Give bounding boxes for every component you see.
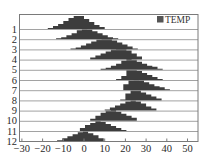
x-tick-label: 50 [182, 143, 193, 154]
ridgeline-chart: 123456789101112 −30−20−1001020304050 TEM… [0, 0, 208, 165]
x-tick-label: 40 [162, 143, 173, 154]
legend-swatch-icon [157, 16, 164, 23]
ridge-month-11 [80, 121, 127, 131]
x-tick-label: 10 [99, 143, 110, 154]
ridge-month-12 [57, 131, 104, 141]
legend-label: TEMP [165, 15, 190, 25]
plot-frame [20, 15, 199, 142]
x-tick-label: −30 [14, 143, 30, 154]
month-ridges [48, 16, 170, 141]
y-axis-labels: 123456789101112 [7, 24, 18, 147]
x-tick-label: −20 [34, 143, 50, 154]
ridge-month-9 [105, 101, 157, 111]
x-tick-label: 30 [141, 143, 152, 154]
legend: TEMP [157, 15, 190, 25]
x-tick-label: 20 [120, 143, 131, 154]
ridge-month-1 [48, 16, 105, 29]
ridge-month-6 [116, 70, 163, 80]
x-tick-label: 0 [81, 143, 86, 154]
x-tick-label: −10 [55, 143, 71, 154]
ridge-month-8 [120, 90, 161, 100]
